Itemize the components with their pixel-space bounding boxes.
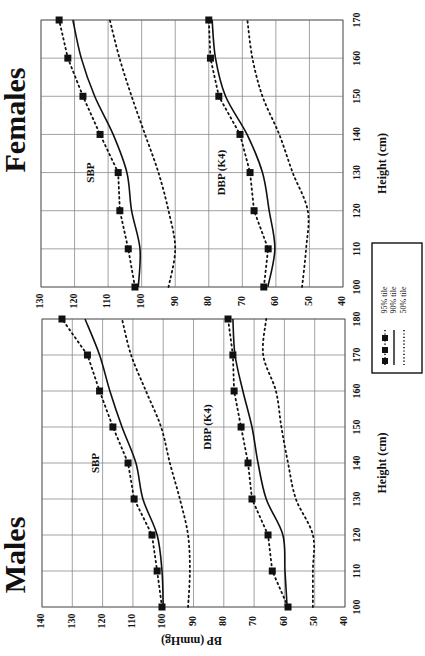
data-point-marker bbox=[215, 93, 222, 100]
height-axis-ticks: 100110120130140150160170 bbox=[351, 13, 362, 295]
legend-label: 50% tile bbox=[399, 286, 408, 313]
svg-text:50: 50 bbox=[308, 616, 319, 626]
svg-text:80: 80 bbox=[217, 616, 228, 626]
panel-title: Females bbox=[0, 68, 31, 173]
data-point-marker bbox=[248, 496, 255, 503]
data-point-marker bbox=[265, 245, 272, 252]
data-point-marker bbox=[131, 284, 138, 291]
svg-text:120: 120 bbox=[96, 614, 107, 629]
data-point-marker bbox=[125, 460, 132, 467]
bp-axis-ticks: 405060708090100110120130 bbox=[34, 294, 347, 309]
svg-text:130: 130 bbox=[34, 294, 45, 309]
svg-text:100: 100 bbox=[351, 280, 362, 295]
svg-text:170: 170 bbox=[351, 348, 362, 363]
data-point-marker bbox=[207, 55, 214, 62]
bp-axis-ticks: 405060708090100110120130140 bbox=[35, 614, 349, 629]
svg-text:150: 150 bbox=[351, 420, 362, 435]
legend: 95% tile90% tile50% tile bbox=[372, 243, 422, 373]
series-line bbox=[110, 20, 175, 287]
legend-label: 90% tile bbox=[389, 286, 398, 313]
data-point-marker bbox=[260, 284, 267, 291]
data-point-marker bbox=[154, 568, 161, 575]
legend-label: 95% tile bbox=[380, 286, 389, 313]
data-point-marker bbox=[115, 169, 122, 176]
data-point-marker bbox=[231, 388, 238, 395]
data-point-marker bbox=[131, 496, 138, 503]
series-annotation: DBP (K4) bbox=[201, 404, 214, 450]
data-point-marker bbox=[251, 207, 258, 214]
svg-text:110: 110 bbox=[351, 564, 362, 578]
svg-text:60: 60 bbox=[269, 296, 280, 306]
series-annotation: SBP bbox=[89, 453, 101, 473]
svg-text:140: 140 bbox=[351, 456, 362, 471]
data-point-marker bbox=[236, 131, 243, 138]
data-point-marker bbox=[148, 532, 155, 539]
y-axis-label: BP (mmHg) bbox=[161, 634, 222, 648]
figure: 4050607080901001101201301401001101201301… bbox=[0, 0, 425, 656]
series-line bbox=[56, 17, 139, 291]
data-point-marker bbox=[79, 93, 86, 100]
svg-text:100: 100 bbox=[156, 614, 167, 629]
series-line bbox=[247, 20, 308, 287]
svg-text:70: 70 bbox=[236, 296, 247, 306]
females-panel: 4050607080901001101201301001101201301401… bbox=[0, 13, 389, 309]
svg-text:160: 160 bbox=[351, 51, 362, 66]
data-point-marker bbox=[265, 532, 272, 539]
svg-text:50: 50 bbox=[303, 296, 314, 306]
data-point-marker bbox=[245, 460, 252, 467]
svg-text:60: 60 bbox=[278, 616, 289, 626]
svg-text:130: 130 bbox=[351, 165, 362, 180]
data-point-marker bbox=[116, 207, 123, 214]
grid bbox=[42, 319, 345, 607]
svg-text:150: 150 bbox=[351, 89, 362, 104]
svg-text:40: 40 bbox=[336, 296, 347, 306]
data-point-marker bbox=[125, 245, 132, 252]
data-point-marker bbox=[205, 17, 212, 24]
data-point-marker bbox=[64, 55, 71, 62]
svg-text:90: 90 bbox=[169, 296, 180, 306]
x-axis-label: Height (cm) bbox=[375, 433, 389, 494]
data-point-marker bbox=[109, 424, 116, 431]
svg-text:110: 110 bbox=[101, 294, 112, 308]
svg-text:110: 110 bbox=[351, 242, 362, 256]
svg-text:80: 80 bbox=[202, 296, 213, 306]
svg-text:140: 140 bbox=[35, 614, 46, 629]
series-annotation: SBP bbox=[84, 162, 96, 182]
svg-text:100: 100 bbox=[135, 294, 146, 309]
males-panel: 4050607080901001101201301401001101201301… bbox=[0, 312, 389, 649]
data-point-marker bbox=[247, 169, 254, 176]
data-point-marker bbox=[97, 131, 104, 138]
data-point-marker bbox=[285, 604, 292, 611]
svg-text:160: 160 bbox=[351, 384, 362, 399]
svg-text:130: 130 bbox=[66, 614, 77, 629]
svg-text:180: 180 bbox=[351, 312, 362, 327]
data-point-marker bbox=[238, 424, 245, 431]
svg-text:120: 120 bbox=[351, 203, 362, 218]
data-point-marker bbox=[225, 316, 232, 323]
svg-text:120: 120 bbox=[351, 528, 362, 543]
height-axis-ticks: 100110120130140150160170180 bbox=[351, 312, 362, 615]
svg-text:130: 130 bbox=[351, 492, 362, 507]
data-point-marker bbox=[158, 604, 165, 611]
data-point-marker bbox=[58, 316, 65, 323]
svg-text:40: 40 bbox=[338, 616, 349, 626]
panel-title: Males bbox=[0, 517, 31, 594]
data-point-marker bbox=[269, 568, 276, 575]
data-point-marker bbox=[84, 352, 91, 359]
x-axis-label: Height (cm) bbox=[375, 133, 389, 194]
series-annotation: DBP (K4) bbox=[215, 149, 228, 195]
svg-text:100: 100 bbox=[351, 600, 362, 615]
svg-text:120: 120 bbox=[68, 294, 79, 309]
svg-text:170: 170 bbox=[351, 13, 362, 28]
svg-text:140: 140 bbox=[351, 127, 362, 142]
grid bbox=[41, 20, 343, 287]
bp-percentile-chart: 4050607080901001101201301401001101201301… bbox=[0, 0, 425, 656]
data-point-marker bbox=[96, 388, 103, 395]
svg-text:110: 110 bbox=[126, 614, 137, 628]
data-point-marker bbox=[56, 17, 63, 24]
svg-text:90: 90 bbox=[187, 616, 198, 626]
svg-text:70: 70 bbox=[247, 616, 258, 626]
